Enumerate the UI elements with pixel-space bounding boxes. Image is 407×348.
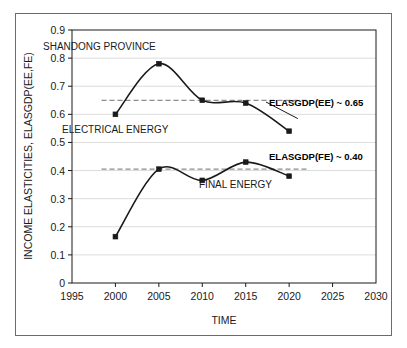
y-axis-tick-label: 0.1 bbox=[50, 249, 65, 261]
data-point-marker bbox=[287, 129, 292, 134]
x-axis-tick-label: 2030 bbox=[364, 290, 388, 302]
x-axis-tick-label: 2025 bbox=[321, 290, 345, 302]
series-label-electrical-energy: ELECTRICAL ENERGY bbox=[62, 124, 169, 135]
data-point-marker bbox=[287, 174, 292, 179]
x-axis-tick-label: 1995 bbox=[60, 290, 84, 302]
chart-title-annotation: SHANDONG PROVINCE bbox=[43, 41, 156, 52]
x-axis-tick-label: 2005 bbox=[147, 290, 171, 302]
y-axis-tick-label: 0.6 bbox=[50, 108, 65, 120]
data-point-marker bbox=[156, 61, 161, 66]
reference-label-ee: ELASGDP(EE) ~ 0.65 bbox=[269, 97, 364, 108]
data-point-marker bbox=[243, 160, 248, 165]
chart-figure: 19952000200520102015202020252030 00.10.2… bbox=[0, 0, 407, 348]
y-axis-tick-group: 00.10.20.30.40.50.60.70.80.9 bbox=[50, 24, 72, 289]
x-axis-tick-group: 19952000200520102015202020252030 bbox=[60, 283, 388, 302]
y-axis-tick-label: 0.2 bbox=[50, 221, 65, 233]
y-axis-tick-label: 0 bbox=[59, 277, 65, 289]
y-axis-title: INCOME ELASTICITIES, ELASGDP(EE,FE) bbox=[22, 52, 34, 260]
y-axis-tick-label: 0.8 bbox=[50, 52, 65, 64]
chart-canvas: 19952000200520102015202020252030 00.10.2… bbox=[0, 0, 407, 348]
x-axis-title: TIME bbox=[211, 314, 236, 326]
data-point-marker bbox=[113, 112, 118, 117]
y-axis-tick-label: 0.4 bbox=[50, 165, 65, 177]
y-axis-tick-label: 0.9 bbox=[50, 24, 65, 36]
data-point-marker bbox=[156, 167, 161, 172]
reference-label-fe: ELASGDP(FE) ~ 0.40 bbox=[269, 151, 363, 162]
data-point-marker bbox=[200, 98, 205, 103]
series-label-final-energy: FINAL ENERGY bbox=[199, 179, 272, 190]
x-axis-tick-label: 2020 bbox=[277, 290, 301, 302]
y-axis-tick-label: 0.7 bbox=[50, 80, 65, 92]
x-axis-tick-label: 2010 bbox=[191, 290, 215, 302]
data-point-marker bbox=[243, 101, 248, 106]
x-axis-tick-label: 2015 bbox=[234, 290, 258, 302]
y-axis-tick-label: 0.3 bbox=[50, 193, 65, 205]
data-point-marker bbox=[113, 234, 118, 239]
x-axis-tick-label: 2000 bbox=[104, 290, 128, 302]
y-axis-tick-label: 0.5 bbox=[50, 136, 65, 148]
